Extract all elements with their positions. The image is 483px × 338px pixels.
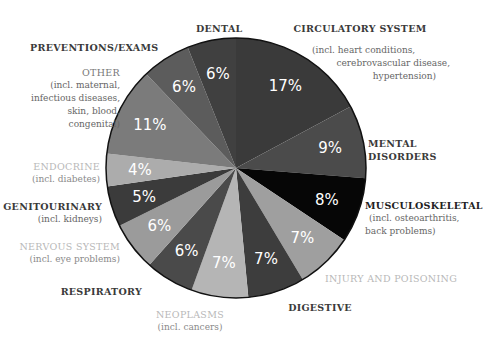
pct-nervous: 6% xyxy=(148,217,172,235)
label-endocrine: ENDOCRINE (incl. diabetes) xyxy=(10,160,100,186)
pct-neoplasms: 7% xyxy=(212,254,236,272)
label-neoplasms: NEOPLASMS (incl. cancers) xyxy=(150,308,230,334)
pct-respiratory: 6% xyxy=(175,242,199,260)
label-respiratory: RESPIRATORY xyxy=(30,285,142,298)
pct-other: 11% xyxy=(133,116,166,134)
pct-digestive: 7% xyxy=(254,250,278,268)
pct-musculoskeletal: 8% xyxy=(315,191,339,209)
pct-circulatory: 17% xyxy=(269,77,302,95)
label-musculoskeletal: MUSCULOSKELETAL (incl. osteoarthritis, b… xyxy=(365,199,483,238)
label-nervous: NERVOUS SYSTEM (incl. eye problems) xyxy=(0,240,120,266)
label-mental: MENTAL DISORDERS xyxy=(368,137,437,163)
label-digestive: DIGESTIVE xyxy=(275,301,365,314)
label-circulatory: CIRCULATORY SYSTEM xyxy=(280,22,440,35)
label-injury: INJURY AND POISONING xyxy=(325,272,457,285)
pct-genitourinary: 5% xyxy=(132,188,156,206)
label-other: OTHER (incl. maternal, infectious diseas… xyxy=(20,66,120,131)
pct-preventions: 6% xyxy=(172,78,196,96)
pct-injury: 7% xyxy=(291,229,315,247)
pct-endocrine: 4% xyxy=(128,161,152,179)
pct-mental: 9% xyxy=(318,139,342,157)
label-genitourinary: GENITOURINARY (incl. kidneys) xyxy=(0,200,102,226)
label-preventions: PREVENTIONS/EXAMS xyxy=(30,41,158,54)
pct-dental: 6% xyxy=(206,65,230,83)
label-circulatory-sub: (incl. heart conditions, cerebrovascular… xyxy=(300,44,450,83)
label-dental: DENTAL xyxy=(196,22,243,35)
